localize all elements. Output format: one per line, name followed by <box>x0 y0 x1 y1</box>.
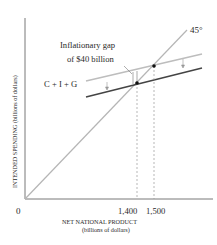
y-axis-title: INTENDED SPENDING (billions of dollars) <box>11 75 19 188</box>
gap-label-line2: of $40 billion <box>67 54 114 64</box>
origin-label: 0 <box>16 206 21 216</box>
tick-1400: 1,400 <box>118 206 137 216</box>
deg45-label: 45° <box>190 25 203 35</box>
cig-label: C + I + G <box>44 79 77 89</box>
cig-lower-line <box>86 68 202 97</box>
keynesian-cross-chart: 45° Inflationary gap of $40 billion C + … <box>0 0 217 245</box>
x-axis-subtitle: (billions of dollars) <box>82 226 130 234</box>
equilibrium-point-1500 <box>152 64 156 68</box>
gap-label-line1: Inflationary gap <box>60 40 115 50</box>
tick-1500: 1,500 <box>146 206 165 216</box>
equilibrium-point-1400 <box>135 81 139 85</box>
x-axis-title: NET NATIONAL PRODUCT <box>62 218 137 225</box>
